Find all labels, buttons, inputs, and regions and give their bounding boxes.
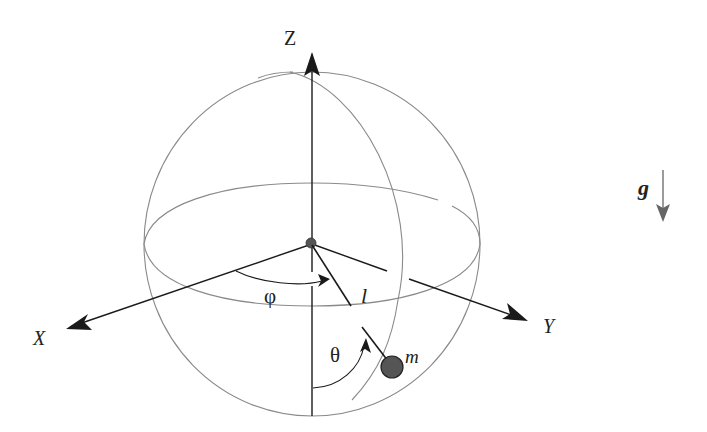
pendulum-mass bbox=[381, 356, 403, 378]
phi-label: φ bbox=[264, 284, 276, 308]
equator-back-arc-right bbox=[452, 206, 480, 244]
x-axis-arrowhead-icon bbox=[66, 314, 92, 330]
theta-arrowhead-icon bbox=[360, 338, 371, 353]
pivot-point bbox=[306, 238, 316, 248]
y-axis-arrowhead-icon bbox=[502, 303, 528, 321]
spherical-pendulum-diagram: Z X Y φ θ l m g bbox=[0, 0, 707, 432]
x-axis-label: X bbox=[32, 327, 46, 349]
equator-back-arc bbox=[144, 183, 438, 244]
phi-arrowhead-icon bbox=[318, 274, 330, 287]
mass-label: m bbox=[405, 346, 419, 367]
z-axis-label: Z bbox=[284, 27, 296, 49]
pendulum-rod-upper bbox=[312, 245, 351, 306]
y-axis-inner bbox=[312, 244, 387, 271]
meridian-cap bbox=[258, 72, 293, 78]
meridian-arc bbox=[290, 72, 403, 400]
length-label: l bbox=[361, 283, 367, 308]
y-axis-label: Y bbox=[543, 315, 556, 337]
theta-label: θ bbox=[330, 343, 340, 367]
gravity-label: g bbox=[637, 175, 649, 200]
y-axis-outer bbox=[409, 279, 520, 318]
